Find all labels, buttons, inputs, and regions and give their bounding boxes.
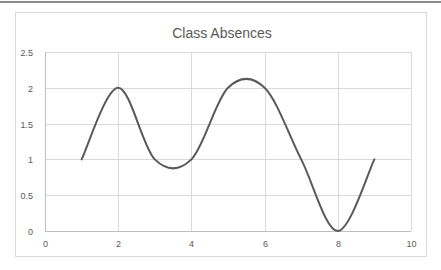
x-tick-label: 6 (263, 239, 268, 249)
series-line[interactable] (82, 79, 375, 231)
plot-area[interactable] (82, 79, 375, 231)
chart-title: Class Absences (172, 25, 272, 41)
x-axis-ticks: 0246810 (43, 239, 417, 249)
y-tick-label: 0 (28, 227, 33, 237)
y-axis-ticks: 00.511.522.5 (20, 48, 33, 237)
y-tick-label: 0.5 (20, 191, 33, 201)
x-tick-label: 10 (406, 239, 416, 249)
chart-svg: Class Absences 00.511.522.5 0246810 (0, 0, 441, 270)
y-tick-label: 1.5 (20, 120, 33, 130)
y-tick-label: 2.5 (20, 48, 33, 58)
y-tick-label: 1 (28, 155, 33, 165)
y-tick-label: 2 (28, 84, 33, 94)
x-tick-label: 8 (336, 239, 341, 249)
x-tick-label: 4 (189, 239, 194, 249)
x-tick-label: 0 (43, 239, 48, 249)
x-tick-label: 2 (116, 239, 121, 249)
